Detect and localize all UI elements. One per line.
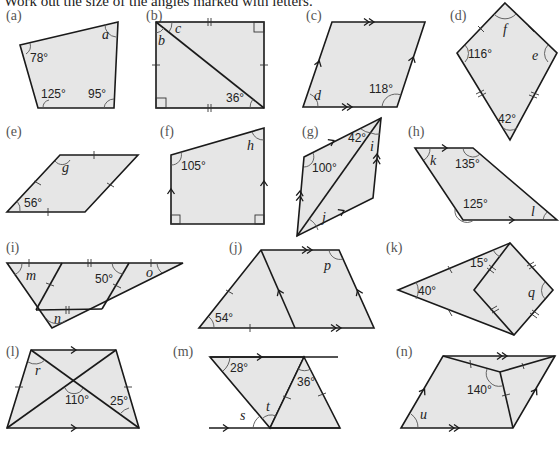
problem-c: (c) 118° d bbox=[303, 8, 425, 111]
problem-label: (j) bbox=[229, 240, 243, 256]
problem-l: (l) 110° 25° r bbox=[6, 344, 139, 432]
problem-g: (g) 42° 100° i j bbox=[296, 118, 381, 236]
isosceles-trapezium-shape bbox=[7, 350, 139, 428]
problem-label: (f) bbox=[160, 124, 174, 140]
unknown-angle-label: d bbox=[314, 88, 322, 103]
unknown-angle-label: u bbox=[420, 407, 427, 422]
angle-label: 42° bbox=[348, 131, 366, 145]
problem-f: (f) 105° h bbox=[160, 124, 268, 224]
unknown-angle-label: r bbox=[35, 363, 41, 378]
angle-label: 42° bbox=[498, 112, 516, 126]
unknown-angle-label: b bbox=[158, 33, 165, 48]
unknown-angle-label: q bbox=[528, 285, 535, 300]
worksheet-page: Work out the size of the angles marked w… bbox=[0, 0, 560, 457]
problem-label: (g) bbox=[302, 124, 319, 140]
angle-label: 50° bbox=[95, 272, 113, 286]
angle-label: 25° bbox=[110, 394, 128, 408]
angle-label: 125° bbox=[41, 87, 66, 101]
problem-label: (m) bbox=[173, 344, 194, 360]
angle-label: 105° bbox=[181, 159, 206, 173]
angle-label: 110° bbox=[65, 393, 89, 407]
problem-b: (b) 36° b c bbox=[146, 8, 268, 112]
angle-label: 78° bbox=[30, 51, 48, 65]
problem-label: (k) bbox=[386, 240, 403, 256]
problem-k: (k) 40° 15° q bbox=[386, 240, 553, 335]
angle-label: 54° bbox=[215, 311, 233, 325]
problem-label: (i) bbox=[6, 240, 20, 256]
angle-label: 95° bbox=[88, 87, 106, 101]
unknown-angle-label: g bbox=[62, 160, 69, 175]
problem-label: (c) bbox=[306, 8, 322, 24]
problem-a: (a) 78° 125° 95° a bbox=[6, 8, 118, 108]
angle-label: 36° bbox=[297, 375, 315, 389]
unknown-angle-label: p bbox=[323, 258, 331, 273]
unknown-angle-label: h bbox=[247, 138, 254, 153]
problem-n: (n) 140° u bbox=[396, 344, 555, 432]
problem-label: (l) bbox=[6, 344, 20, 360]
angle-label: 15° bbox=[470, 256, 488, 270]
figures-canvas: (a) 78° 125° 95° a (b) 36° b bbox=[0, 0, 560, 457]
angle-label: 56° bbox=[24, 196, 42, 210]
problem-label: (e) bbox=[6, 124, 22, 140]
unknown-angle-label: l bbox=[531, 204, 535, 219]
problem-m: (m) 28° 36° s t bbox=[173, 344, 340, 432]
unknown-angle-label: o bbox=[146, 265, 153, 280]
parallelogram-shape bbox=[303, 22, 425, 107]
unknown-angle-label: i bbox=[370, 139, 374, 154]
unknown-angle-label: n bbox=[54, 311, 61, 326]
angle-label: 36° bbox=[226, 91, 244, 105]
problem-i: (i) 50° m o n bbox=[6, 240, 183, 328]
angle-label: 140° bbox=[467, 383, 492, 397]
problem-label: (d) bbox=[450, 8, 467, 24]
unknown-angle-label: c bbox=[175, 21, 182, 36]
unknown-angle-label: m bbox=[26, 268, 36, 283]
unknown-angle-label: s bbox=[240, 408, 246, 423]
problem-e: (e) 56° g bbox=[6, 124, 138, 216]
problem-label: (n) bbox=[396, 344, 413, 360]
unknown-angle-label: e bbox=[532, 48, 538, 63]
problem-label: (h) bbox=[408, 124, 425, 140]
unknown-angle-label: k bbox=[430, 153, 437, 168]
problem-j: (j) 54° p bbox=[199, 240, 374, 332]
angle-label: 100° bbox=[312, 161, 337, 175]
angle-label: 135° bbox=[455, 157, 480, 171]
unknown-angle-label: a bbox=[102, 27, 109, 42]
angle-label: 118° bbox=[369, 82, 393, 96]
angle-label: 116° bbox=[468, 47, 492, 61]
angle-label: 40° bbox=[418, 284, 436, 298]
problem-d: (d) 116° 42° f e bbox=[450, 3, 557, 140]
problem-h: (h) 135° 125° k l bbox=[408, 124, 557, 224]
angle-label: 125° bbox=[463, 197, 488, 211]
angle-label: 28° bbox=[230, 361, 248, 375]
problem-label: (a) bbox=[6, 8, 22, 24]
